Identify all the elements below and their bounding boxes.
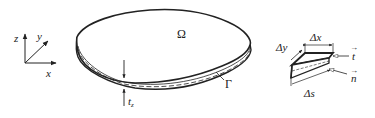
dy-label: Δy bbox=[275, 41, 287, 53]
ds-label: Δs bbox=[303, 87, 315, 99]
boundary-element: Δx Δy Δs t → n → bbox=[275, 31, 358, 99]
tangent-vector-arrow: → bbox=[350, 43, 358, 52]
dx-label: Δx bbox=[309, 31, 321, 43]
normal-vector bbox=[329, 69, 347, 74]
x-axis-label: x bbox=[45, 67, 51, 79]
y-axis-arrow bbox=[25, 41, 48, 63]
thickness-label: tz bbox=[128, 95, 134, 109]
thickness-subscript: z bbox=[130, 101, 134, 109]
y-axis-label: y bbox=[36, 30, 42, 42]
boundary-label: Γ bbox=[225, 77, 232, 91]
z-axis-label: z bbox=[13, 32, 19, 44]
plate: Γ Ω tz bbox=[76, 10, 251, 110]
coordinate-axes: z y x bbox=[13, 30, 56, 79]
plate-diagram: z y x Γ Ω tz Δx Δ bbox=[0, 0, 375, 118]
element-left-edge bbox=[291, 65, 292, 78]
domain-label: Ω bbox=[177, 27, 186, 41]
normal-vector-arrow: → bbox=[350, 66, 358, 75]
